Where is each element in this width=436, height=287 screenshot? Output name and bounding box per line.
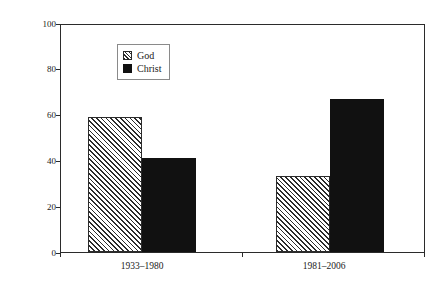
x-tick-mark-right [424, 253, 425, 257]
legend-swatch-god-icon [123, 51, 132, 60]
x-tick-mark-left [60, 253, 61, 257]
legend-label-god: God [137, 50, 154, 61]
legend-label-christ: Christ [137, 63, 161, 74]
x-tick-mark-middle [242, 253, 243, 257]
y-tick-label-100: 100 [0, 19, 56, 29]
y-tick-label-40: 40 [0, 156, 56, 166]
y-tick-label-0: 0 [0, 248, 56, 258]
x-tick-label-1981-2006: 1981–2006 [244, 261, 404, 271]
bar-chart: Percentage of total references 0 20 40 6… [0, 0, 436, 287]
legend: God Christ [117, 44, 170, 80]
y-tick-label-80: 80 [0, 64, 56, 74]
bar-god-1933-1980 [88, 117, 142, 252]
y-tick-label-60: 60 [0, 110, 56, 120]
legend-item-christ: Christ [123, 62, 161, 75]
legend-swatch-christ-icon [123, 64, 132, 73]
plot-area: God Christ [60, 24, 425, 253]
y-tick-label-20: 20 [0, 202, 56, 212]
bar-christ-1981-2006 [330, 99, 384, 252]
legend-item-god: God [123, 49, 161, 62]
bar-christ-1933-1980 [142, 158, 196, 252]
bar-god-1981-2006 [276, 176, 330, 252]
x-tick-label-1933-1980: 1933–1980 [62, 261, 222, 271]
